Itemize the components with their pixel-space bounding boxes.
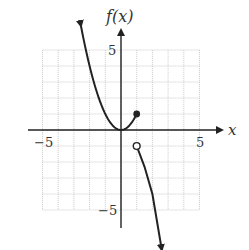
x-axis-label: x: [228, 121, 237, 139]
y-tick-label-min: −5: [98, 203, 117, 218]
y-tick-label-max: 5: [108, 43, 116, 58]
graph-canvas: f(x) x −5 5 5 −5: [0, 0, 249, 250]
piecewise-function-graph: f(x) x −5 5 5 −5: [0, 0, 249, 250]
x-tick-label-max: 5: [196, 135, 204, 150]
open-endpoint-dot: [133, 143, 140, 150]
y-axis-label: f(x): [105, 7, 133, 26]
closed-endpoint-dot: [133, 111, 140, 118]
x-tick-label-min: −5: [34, 135, 53, 150]
